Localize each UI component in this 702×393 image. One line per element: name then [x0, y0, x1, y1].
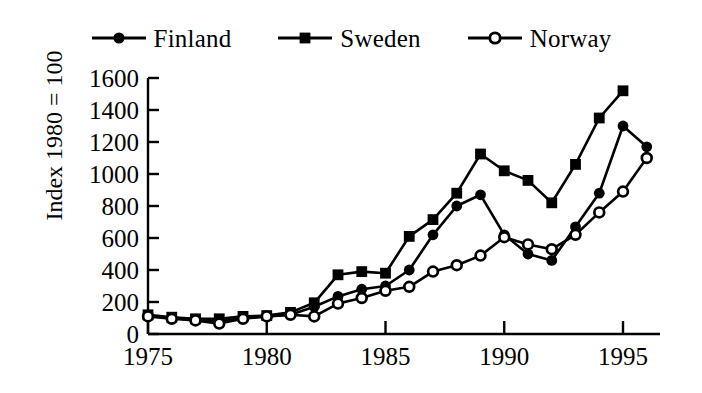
data-point [499, 232, 509, 242]
data-point [428, 214, 439, 225]
data-point [476, 251, 486, 261]
data-point [451, 188, 462, 199]
data-point [499, 165, 510, 176]
data-point [214, 319, 224, 329]
data-point [523, 240, 533, 250]
data-point [618, 187, 628, 197]
y-axis-tick-labels: 02004006008001000120014001600 [89, 65, 139, 348]
data-point [404, 265, 415, 276]
data-point [428, 267, 438, 277]
data-point [167, 314, 177, 324]
data-point [452, 260, 462, 270]
data-point [428, 229, 439, 240]
chart-figure: Finland Sweden Norway Index 1980 = 100 0… [0, 0, 702, 393]
data-point [475, 149, 486, 160]
x-axis: 19751980198519901995 [123, 321, 660, 370]
y-axis-ticks [148, 78, 159, 334]
data-point [309, 297, 320, 308]
y-axis: 02004006008001000120014001600 [89, 65, 159, 348]
x-tick-label: 1995 [598, 343, 648, 370]
chart-plot-area: 02004006008001000120014001600 1975198019… [0, 0, 702, 393]
series-finland [143, 121, 653, 327]
data-point [642, 153, 652, 163]
data-point [381, 286, 391, 296]
x-axis-tick-labels: 19751980198519901995 [123, 343, 648, 370]
y-tick-label: 1400 [89, 97, 139, 124]
series-norway [143, 153, 652, 328]
data-point [333, 299, 343, 309]
data-series-layer [143, 85, 653, 328]
data-point [547, 244, 557, 254]
data-point [238, 314, 248, 324]
y-tick-label: 200 [102, 289, 140, 316]
x-tick-label: 1985 [361, 343, 411, 370]
y-tick-label: 800 [102, 193, 140, 220]
y-tick-label: 400 [102, 257, 140, 284]
data-point [618, 121, 629, 132]
data-point [333, 269, 344, 280]
y-tick-label: 1600 [89, 65, 139, 92]
data-point [546, 197, 557, 208]
y-tick-label: 1000 [89, 161, 139, 188]
data-point [641, 141, 652, 152]
data-point [523, 175, 534, 186]
data-point [143, 312, 153, 322]
data-point [594, 188, 605, 199]
data-point [451, 201, 462, 212]
data-point [309, 312, 319, 322]
data-point [546, 255, 557, 266]
data-point [356, 266, 367, 277]
data-point [571, 230, 581, 240]
data-point [594, 113, 605, 124]
data-point [570, 159, 581, 170]
data-point [262, 312, 272, 322]
data-point [618, 85, 629, 96]
data-point [404, 282, 414, 292]
y-tick-label: 600 [102, 225, 140, 252]
data-point [380, 268, 391, 279]
data-point [475, 189, 486, 200]
x-tick-label: 1980 [242, 343, 292, 370]
y-tick-label: 1200 [89, 129, 139, 156]
series-line [148, 158, 647, 324]
data-point [357, 293, 367, 303]
data-point [286, 310, 296, 320]
x-tick-label: 1990 [479, 343, 529, 370]
data-point [191, 316, 201, 326]
data-point [594, 208, 604, 218]
x-tick-label: 1975 [123, 343, 173, 370]
data-point [404, 231, 415, 242]
